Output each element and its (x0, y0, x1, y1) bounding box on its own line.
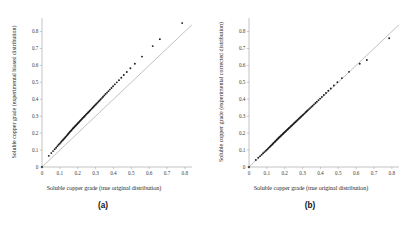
figure-qq-plots: Soluble copper grade (experimental biase… (0, 0, 413, 226)
svg-text:0.8: 0.8 (389, 170, 396, 176)
svg-text:0: 0 (243, 164, 246, 170)
svg-text:0.2: 0.2 (74, 170, 81, 176)
svg-text:0.5: 0.5 (239, 79, 246, 85)
svg-text:0.3: 0.3 (32, 113, 39, 119)
svg-text:0.7: 0.7 (32, 45, 39, 51)
svg-text:0.8: 0.8 (182, 170, 189, 176)
svg-text:0: 0 (248, 170, 251, 176)
svg-text:0.8: 0.8 (32, 28, 39, 34)
svg-text:0.7: 0.7 (164, 170, 171, 176)
svg-text:0.1: 0.1 (264, 170, 271, 176)
panel-a-plot-area: 00.10.20.30.40.50.60.70.800.10.20.30.40.… (42, 18, 192, 167)
svg-text:0.7: 0.7 (239, 45, 246, 51)
panel-b: Soluble copper grade (experimental corre… (207, 0, 413, 226)
svg-text:0.1: 0.1 (57, 170, 64, 176)
panel-a-x-axis-label: Soluble copper grade (true original dist… (14, 185, 194, 191)
svg-text:0: 0 (41, 170, 44, 176)
panel-b-y-axis-label: Soluble copper grade (experimental corre… (218, 4, 230, 180)
svg-text:0.2: 0.2 (281, 170, 288, 176)
svg-text:0.3: 0.3 (299, 170, 306, 176)
panel-a-chart: 00.10.20.30.40.50.60.70.800.10.20.30.40.… (42, 18, 192, 167)
svg-text:0.6: 0.6 (146, 170, 153, 176)
svg-text:0.6: 0.6 (239, 62, 246, 68)
panel-b-caption: (b) (207, 201, 413, 210)
svg-text:0.4: 0.4 (110, 170, 117, 176)
svg-text:0.1: 0.1 (239, 147, 246, 153)
svg-text:0.1: 0.1 (32, 147, 39, 153)
panel-b-chart: 00.10.20.30.40.50.60.70.800.10.20.30.40.… (249, 18, 399, 167)
svg-text:0.6: 0.6 (32, 62, 39, 68)
svg-text:0.8: 0.8 (239, 28, 246, 34)
panel-b-x-axis-label: Soluble copper grade (true original dist… (221, 185, 401, 191)
svg-text:0: 0 (36, 164, 39, 170)
svg-text:0.5: 0.5 (128, 170, 135, 176)
panel-a-caption: (a) (0, 201, 206, 210)
svg-text:0.2: 0.2 (32, 130, 39, 136)
svg-text:0.6: 0.6 (353, 170, 360, 176)
svg-text:0.3: 0.3 (239, 113, 246, 119)
svg-text:0.4: 0.4 (317, 170, 324, 176)
svg-text:0.5: 0.5 (32, 79, 39, 85)
panel-b-plot-area: 00.10.20.30.40.50.60.70.800.10.20.30.40.… (249, 18, 399, 167)
svg-text:0.4: 0.4 (32, 96, 39, 102)
panel-a: Soluble copper grade (experimental biase… (0, 0, 206, 226)
svg-text:0.5: 0.5 (335, 170, 342, 176)
svg-text:0.4: 0.4 (239, 96, 246, 102)
panel-a-y-axis-label: Soluble copper grade (experimental biase… (11, 4, 23, 180)
svg-text:0.2: 0.2 (239, 130, 246, 136)
svg-text:0.7: 0.7 (371, 170, 378, 176)
svg-text:0.3: 0.3 (92, 170, 99, 176)
